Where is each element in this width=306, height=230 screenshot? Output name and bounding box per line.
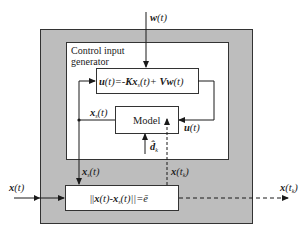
x-output-label: x(tk): [279, 182, 298, 194]
xs-down-label: xs(t): [81, 166, 100, 178]
control-law-label: u(t)=-Kxs(t)+ Vw(t): [99, 76, 184, 88]
control-input-generator-label-1: Control input: [71, 45, 125, 56]
control-input-generator-label-2: generator: [71, 56, 109, 67]
x-input-label: x(t): [8, 182, 25, 194]
xs-model-label: xs(t): [89, 107, 108, 119]
model-label: Model: [133, 115, 160, 126]
x-tk-up-label: x(tk): [170, 166, 189, 178]
u-feedback-label: u(t): [184, 122, 200, 134]
x-input-mid-arrowhead: [34, 195, 40, 201]
block-diagram: Control input generator w(t) u(t)=-Kxs(t…: [0, 0, 306, 230]
w-input-label: w(t): [150, 12, 167, 24]
